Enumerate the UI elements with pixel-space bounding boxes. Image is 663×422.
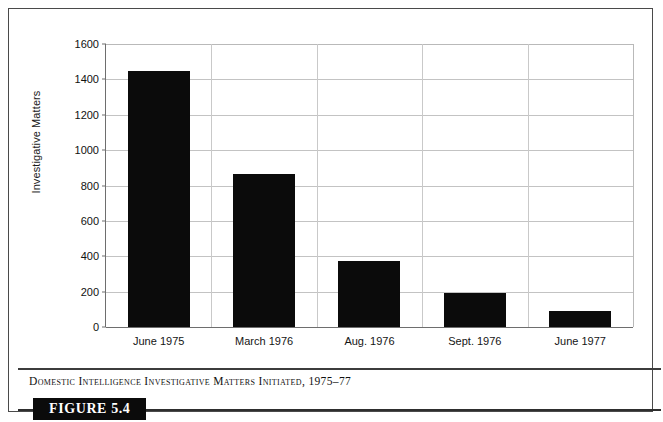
x-label-slot: Sept. 1976 [422, 44, 527, 327]
y-axis-title: Investigative Matters [30, 82, 42, 202]
figure-page: Investigative Matters 020040060080010001… [0, 0, 663, 422]
figure-number-badge: FIGURE 5.4 [33, 398, 146, 420]
y-tick-label-200: 200 [81, 286, 99, 298]
y-tick-label-1600: 1600 [75, 38, 99, 50]
chart-region: Investigative Matters 020040060080010001… [18, 18, 661, 363]
x-tick-label: March 1976 [235, 335, 293, 347]
caption-divider [18, 368, 661, 370]
y-tick-label-0: 0 [93, 321, 99, 333]
x-label-slot: June 1977 [528, 44, 633, 327]
x-tick-label: June 1975 [133, 335, 184, 347]
x-tick-label: Sept. 1976 [448, 335, 501, 347]
figure-caption: Domestic Intelligence Investigative Matt… [29, 375, 351, 387]
x-tick-label: June 1977 [555, 335, 606, 347]
gridline-0 [106, 327, 633, 328]
y-tick-label-1200: 1200 [75, 109, 99, 121]
figure-frame: Investigative Matters 020040060080010001… [8, 8, 653, 412]
y-tick-label-400: 400 [81, 250, 99, 262]
y-tick-label-800: 800 [81, 180, 99, 192]
y-tick-label-1000: 1000 [75, 144, 99, 156]
x-label-slot: March 1976 [211, 44, 316, 327]
x-label-slot: June 1975 [106, 44, 211, 327]
x-tick-label: Aug. 1976 [344, 335, 394, 347]
plot-area: 02004006008001000120014001600 June 1975M… [105, 44, 634, 327]
y-tick-label-600: 600 [81, 215, 99, 227]
x-label-slot: Aug. 1976 [317, 44, 422, 327]
y-tick-label-1400: 1400 [75, 73, 99, 85]
